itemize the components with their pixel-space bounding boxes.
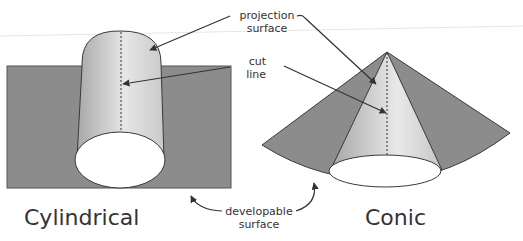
map-projection-diagram: projection surface cut line developable … [0,0,523,241]
arrow-developable-to-fan [296,183,315,211]
conic-projection [262,52,510,187]
label-developable-surface: surface [239,218,280,231]
title-conic: Conic [365,205,426,230]
title-cylindrical: Cylindrical [24,205,139,230]
label-surface: surface [247,22,288,35]
arrow-developable-to-plane [191,196,222,211]
diagram-canvas: projection surface cut line developable … [0,0,523,241]
label-cut: cut [249,55,267,68]
arrow-projection-to-cone [297,15,376,84]
label-projection: projection [240,9,295,22]
cone-base-ellipse [329,155,441,187]
cylindrical-projection [7,31,231,188]
label-developable: developable [225,205,293,218]
cylinder-base-ellipse [75,132,165,188]
label-line: line [246,68,266,81]
